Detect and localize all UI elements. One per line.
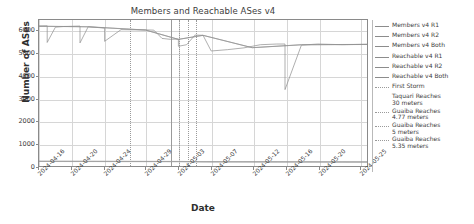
legend-item[interactable]: Members v4 R1: [375, 22, 472, 31]
legend-label: Taquari Reaches 30 meters: [392, 93, 441, 106]
legend-label: Reachable v4 R1: [392, 53, 442, 60]
legend-item[interactable]: Guaiba Reaches 5 meters: [375, 122, 472, 135]
plot-area: [38, 19, 368, 167]
legend-swatch-icon: [375, 64, 389, 72]
legend-label: Members v4 R2: [392, 32, 439, 39]
x-axis-label: Date: [38, 203, 368, 213]
legend-swatch-icon: [375, 33, 389, 41]
legend-label: Guaiba Reaches 5 meters: [392, 122, 440, 135]
legend-label: First Storm: [392, 83, 425, 90]
y-axis-ticks: 0100020003000400050006000: [0, 19, 35, 167]
legend-item[interactable]: Reachable v4 R1: [375, 53, 472, 62]
y-tick-label: 0: [4, 163, 35, 171]
legend-item[interactable]: Guaiba Reaches 5.35 meters: [375, 136, 472, 149]
legend-item[interactable]: Reachable v4 R2: [375, 63, 472, 72]
legend-swatch-icon: [375, 123, 389, 131]
legend-label: Guaiba Reaches 4.77 meters: [392, 108, 440, 121]
legend-label: Members v4 Both: [392, 42, 445, 49]
legend-swatch-icon: [375, 23, 389, 31]
legend-label: Guaiba Reaches 5.35 meters: [392, 136, 440, 149]
legend-swatch-icon: [375, 84, 389, 92]
legend-swatch-icon: [375, 94, 389, 102]
chart-legend: Members v4 R1Members v4 R2Members v4 Bot…: [372, 20, 472, 172]
legend-swatch-icon: [375, 43, 389, 51]
legend-item[interactable]: Taquari Reaches 30 meters: [375, 93, 472, 106]
legend-item[interactable]: First Storm: [375, 83, 472, 92]
legend-swatch-icon: [375, 54, 389, 62]
y-tick-label: 1000: [4, 140, 35, 148]
legend-swatch-icon: [375, 109, 389, 117]
chart-figure: Members and Reachable ASes v4 Number of …: [0, 0, 474, 224]
legend-item[interactable]: Reachable v4 Both: [375, 73, 472, 82]
legend-label: Members v4 R1: [392, 22, 439, 29]
legend-swatch-icon: [375, 137, 389, 145]
y-tick-label: 6000: [4, 26, 35, 34]
legend-item[interactable]: Members v4 R2: [375, 32, 472, 41]
y-tick-label: 3000: [4, 95, 35, 103]
series-lines: [39, 20, 367, 166]
legend-item[interactable]: Members v4 Both: [375, 42, 472, 51]
legend-label: Reachable v4 R2: [392, 63, 442, 70]
chart-title: Members and Reachable ASes v4: [38, 6, 368, 16]
legend-swatch-icon: [375, 74, 389, 82]
series-line: [39, 26, 367, 47]
legend-label: Reachable v4 Both: [392, 73, 448, 80]
y-tick-label: 4000: [4, 72, 35, 80]
y-tick-label: 2000: [4, 117, 35, 125]
legend-item[interactable]: Guaiba Reaches 4.77 meters: [375, 108, 472, 121]
y-tick-label: 5000: [4, 49, 35, 57]
